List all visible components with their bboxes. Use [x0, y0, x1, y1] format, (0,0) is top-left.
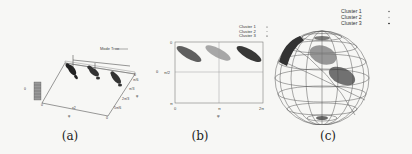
caption-a: (a): [62, 129, 79, 143]
caption-b: (b): [191, 129, 208, 143]
svg-text:0: 0: [170, 40, 173, 45]
legend-mode-tree: Mode Tree: [100, 46, 120, 51]
pole-marker: [316, 116, 328, 120]
svg-text:0: 0: [134, 73, 136, 77]
svg-text:x2: x2: [72, 106, 76, 110]
legend: Cluster 1 Cluster 2 Cluster 3: [341, 8, 390, 26]
svg-text:φ: φ: [136, 94, 139, 98]
cluster-2-patch: [307, 42, 339, 68]
cluster-2-points: [204, 42, 233, 63]
svg-text:π/2: π/2: [164, 70, 171, 75]
cluster-1-points: [175, 43, 204, 65]
theta-phi-plot: Cluster 1 Cluster 2 Cluster 3 0 π/2 π 0 …: [150, 0, 275, 125]
legend: Cluster 1 Cluster 2 Cluster 3: [239, 24, 268, 38]
svg-text:0: 0: [106, 116, 108, 120]
svg-text:π/6: π/6: [133, 78, 138, 82]
cluster-3-points: [235, 43, 264, 65]
cluster-3-points: [109, 70, 123, 86]
panel-b-scatter: Cluster 1 Cluster 2 Cluster 3 0 π/2 π 0 …: [150, 0, 275, 125]
axis-ticks: 0 x2 0 0 π/6 π/3 2π/3 5π/6 θ φ φ: [24, 73, 139, 120]
legend-cluster-3: Cluster 3: [341, 20, 362, 26]
cluster-3-patch: [326, 63, 358, 89]
cluster-2-points: [86, 65, 100, 80]
svg-text:φ: φ: [68, 114, 71, 118]
svg-text:θ: θ: [24, 87, 26, 91]
y-axis-label: θ: [156, 69, 159, 74]
mode-tree-plot: Mode Tree: [0, 0, 160, 125]
svg-text:2π/3: 2π/3: [122, 97, 129, 101]
svg-text:π/3: π/3: [129, 87, 134, 91]
sphere-plot: Cluster 1 Cluster 2 Cluster 3: [270, 0, 412, 125]
svg-text:0: 0: [174, 106, 177, 111]
panel-a-mode-tree: Mode Tree: [0, 0, 160, 125]
caption-c: (c): [320, 129, 336, 143]
histogram-bars: [34, 82, 41, 100]
panel-c-globe: Cluster 1 Cluster 2 Cluster 3: [270, 0, 412, 125]
legend-cluster-3: Cluster 3: [239, 33, 256, 38]
svg-text:π: π: [218, 106, 221, 111]
svg-text:2π: 2π: [259, 106, 264, 111]
svg-text:π: π: [170, 101, 173, 106]
svg-text:5π/6: 5π/6: [114, 106, 121, 110]
x-axis-label: φ: [217, 113, 220, 118]
svg-text:0: 0: [41, 103, 43, 107]
